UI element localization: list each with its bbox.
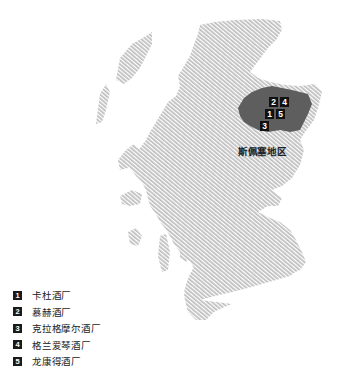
distillery-badge-5[interactable]: 5 — [276, 109, 285, 119]
region-label-speyside: 斯佩塞地区 — [238, 144, 287, 158]
outer-hebrides-south — [96, 84, 110, 124]
legend-number-badge: 2 — [13, 307, 22, 316]
legend-number-badge: 1 — [13, 291, 22, 300]
legend-label: 克拉格摩尔酒厂 — [32, 321, 101, 335]
legend-item-2: 2 慕赫酒厂 — [13, 304, 101, 321]
distillery-badge-4[interactable]: 4 — [280, 97, 289, 107]
islay — [128, 228, 142, 246]
legend: 1 卡杜酒厂 2 慕赫酒厂 3 克拉格摩尔酒厂 4 格兰爱琴酒厂 5 龙康得酒厂 — [13, 287, 101, 370]
legend-label: 格兰爱琴酒厂 — [32, 338, 91, 352]
legend-number-badge: 3 — [13, 324, 22, 333]
legend-item-5: 5 龙康得酒厂 — [13, 353, 101, 370]
legend-label: 龙康得酒厂 — [32, 354, 81, 368]
distillery-badge-2[interactable]: 2 — [269, 97, 278, 107]
legend-item-1: 1 卡杜酒厂 — [13, 287, 101, 304]
kintyre — [158, 234, 170, 272]
mull — [120, 190, 142, 206]
legend-number-badge: 5 — [13, 357, 22, 366]
distillery-badge-1[interactable]: 1 — [265, 109, 274, 119]
lewis — [116, 32, 152, 84]
legend-number-badge: 4 — [13, 340, 22, 349]
distillery-badge-3[interactable]: 3 — [260, 121, 269, 131]
legend-item-4: 4 格兰爱琴酒厂 — [13, 337, 101, 354]
legend-item-3: 3 克拉格摩尔酒厂 — [13, 320, 101, 337]
legend-label: 卡杜酒厂 — [32, 288, 71, 302]
legend-label: 慕赫酒厂 — [32, 305, 71, 319]
